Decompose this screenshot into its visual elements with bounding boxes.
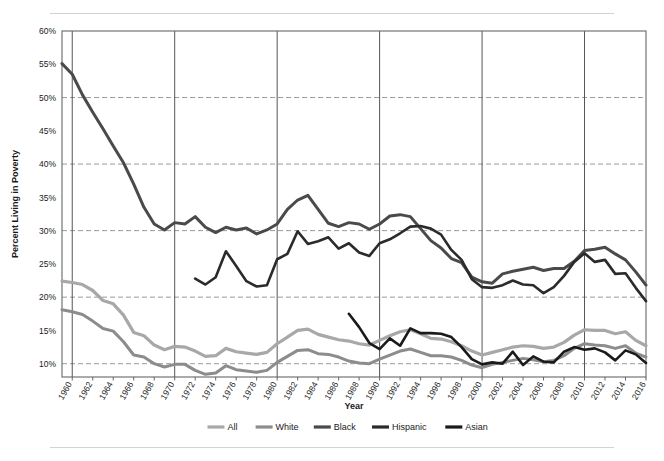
x-tick-label: 1992 (384, 380, 402, 402)
x-tick-label: 2008 (548, 380, 566, 402)
x-tick-label: 2012 (589, 380, 607, 402)
legend-label: Black (334, 422, 357, 432)
series-line-asian (349, 314, 646, 365)
y-tick-label: 55% (39, 59, 56, 69)
x-tick-label: 1970 (158, 380, 176, 402)
y-tick-label: 50% (39, 93, 56, 103)
y-axis-title: Percent Living in Poverty (10, 150, 20, 258)
x-tick-label: 1986 (322, 380, 340, 402)
legend-item-all[interactable]: All (207, 422, 237, 432)
x-tick-label: 2002 (486, 380, 504, 402)
vertical-gridlines (72, 31, 584, 377)
x-tick-label: 1960 (56, 380, 74, 402)
x-tick-label: 2006 (527, 380, 545, 402)
x-tick-label: 1972 (179, 380, 197, 402)
x-tick-label: 2010 (568, 380, 586, 402)
x-tick-label: 1998 (445, 380, 463, 402)
line-chart: 10%15%20%25%30%35%40%45%50%55%60% 196019… (0, 0, 664, 461)
legend-label: Hispanic (392, 422, 427, 432)
poverty-rate-chart-figure: 10%15%20%25%30%35%40%45%50%55%60% 196019… (0, 0, 664, 461)
x-tick-label: 2004 (507, 380, 525, 402)
bottom-divider-rule (50, 447, 614, 448)
x-axis-tick-labels: 1960196219641966196819701972197419761978… (56, 380, 648, 402)
x-tick-label: 1962 (76, 380, 94, 402)
x-axis-title: Year (344, 401, 364, 411)
legend-item-hispanic[interactable]: Hispanic (372, 422, 427, 432)
y-axis-tick-labels: 10%15%20%25%30%35%40%45%50%55%60% (39, 26, 56, 369)
x-tick-label: 1974 (199, 380, 217, 402)
legend-item-asian[interactable]: Asian (445, 422, 488, 432)
x-tick-label: 2016 (630, 380, 648, 402)
y-tick-label: 15% (39, 326, 56, 336)
y-tick-label: 35% (39, 193, 56, 203)
y-tick-label: 40% (39, 159, 56, 169)
x-tick-label: 1994 (404, 380, 422, 402)
x-tick-label: 1968 (138, 380, 156, 402)
y-tick-label: 45% (39, 126, 56, 136)
chart-legend: AllWhiteBlackHispanicAsian (207, 422, 487, 432)
x-tick-label: 1996 (425, 380, 443, 402)
x-tick-label: 1976 (220, 380, 238, 402)
x-tick-label: 1964 (97, 380, 115, 402)
plot-area-frame (62, 31, 646, 377)
y-tick-label: 30% (39, 226, 56, 236)
legend-item-white[interactable]: White (256, 422, 299, 432)
x-tick-label: 1980 (261, 380, 279, 402)
x-tick-label: 2014 (609, 380, 627, 402)
legend-label: White (276, 422, 299, 432)
x-tick-label: 1966 (117, 380, 135, 402)
x-tick-label: 2000 (466, 380, 484, 402)
x-tick-label: 1978 (240, 380, 258, 402)
x-tick-label: 1982 (281, 380, 299, 402)
y-tick-label: 10% (39, 359, 56, 369)
y-tick-label: 60% (39, 26, 56, 36)
legend-label: Asian (465, 422, 488, 432)
top-divider-rule (50, 13, 614, 14)
series-line-black (62, 64, 646, 286)
legend-item-black[interactable]: Black (314, 422, 357, 432)
data-series-lines (62, 64, 646, 375)
y-tick-label: 25% (39, 259, 56, 269)
horizontal-gridlines (62, 98, 646, 364)
series-line-hispanic (195, 226, 646, 301)
x-tick-label: 1984 (302, 380, 320, 402)
x-tick-label: 1988 (343, 380, 361, 402)
y-tick-label: 20% (39, 292, 56, 302)
x-tick-label: 1990 (363, 380, 381, 402)
legend-label: All (227, 422, 237, 432)
